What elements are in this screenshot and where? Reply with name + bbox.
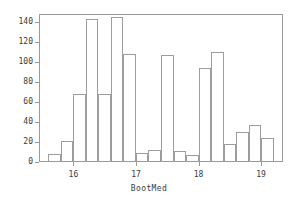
x-axis-title: BootMed [0,184,298,193]
x-axis-tick-mark [199,162,200,166]
x-axis-tick-label: 19 [256,170,266,179]
x-axis-tick-label: 17 [131,170,141,179]
x-axis-tick-mark [73,162,74,166]
histogram-figure: 020406080100120140 BootMed 16171819 [0,0,298,203]
x-axis-tick-label: 16 [69,170,79,179]
x-axis-tick-mark [261,162,262,166]
x-axis-tick-mark [136,162,137,166]
x-axis: BootMed 16171819 [0,0,298,203]
x-axis-tick-label: 18 [194,170,204,179]
